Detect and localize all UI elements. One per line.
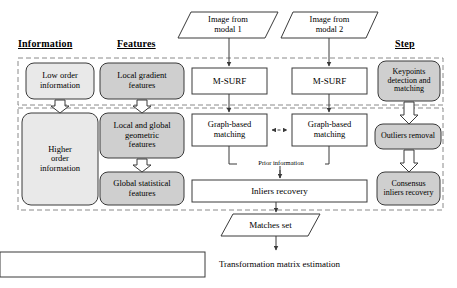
node-global-statistical-features-shape [100,172,184,205]
node-graph-based-matching-right-shape [292,114,367,146]
block-arrow-information [51,100,69,113]
node-transformation-matrix-shape [0,252,205,277]
block-arrow-features-2 [133,159,151,172]
node-modal2-shape [281,12,378,38]
node-inliers-recovery-shape [192,180,367,202]
block-arrow-features-1 [133,100,151,113]
node-modal1-shape [178,12,278,38]
edge-label-prior-information: Prior information [237,159,325,166]
node-graph-based-matching-left-shape [192,114,267,146]
diagram-vector-layer [0,0,457,288]
node-local-and-global-geometric-shape [100,113,184,158]
node-keypoints-detection-and-matching-shape [378,61,440,101]
block-arrow-step-2 [400,150,418,172]
node-low-order-information-shape [26,63,94,99]
node-m-surf-right-shape [292,68,367,94]
node-matches-set-shape [221,214,320,236]
flowchart-canvas: Information Features Step [0,0,457,288]
node-consensus-inliers-recovery-shape [377,172,440,205]
node-m-surf-left-shape [192,68,267,94]
node-higher-order-information-shape [22,113,98,205]
node-local-gradient-features-shape [100,63,184,99]
node-outliers-removal-shape [375,124,441,149]
